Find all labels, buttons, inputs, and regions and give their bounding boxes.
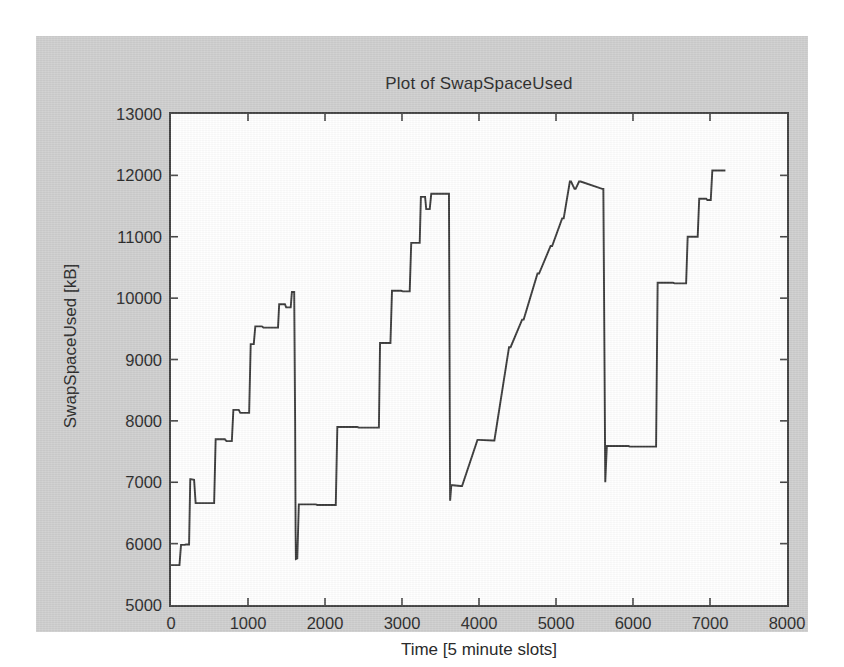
screenshot-root: Plot of SwapSpaceUsed 500060007000800090…	[0, 0, 844, 667]
y-tick-label: 11000	[117, 227, 162, 246]
chart-title: Plot of SwapSpaceUsed	[169, 74, 789, 94]
y-tick-label: 13000	[116, 105, 162, 124]
plot-svg	[171, 114, 787, 605]
y-tick-label: 12000	[116, 166, 162, 185]
y-axis-label: SwapSpaceUsed [kB]	[61, 216, 81, 476]
figure-panel: Plot of SwapSpaceUsed 500060007000800090…	[36, 36, 808, 632]
y-tick-label: 10000	[116, 289, 162, 308]
x-axis-label: Time [5 minute slots]	[169, 640, 789, 660]
x-tick-label: 7000	[692, 614, 729, 633]
x-tick-label: 4000	[461, 614, 498, 633]
data-series-line	[171, 170, 725, 565]
x-tick-label: 5000	[538, 614, 575, 633]
y-tick-label: 7000	[125, 473, 162, 492]
x-tick-label: 0	[166, 614, 175, 633]
x-axis-tick-labels: 010002000300040005000600070008000	[169, 614, 789, 640]
y-tick-label: 6000	[125, 534, 162, 553]
plot-area	[169, 112, 789, 607]
y-tick-label: 8000	[125, 411, 162, 430]
x-tick-label: 1000	[230, 614, 267, 633]
y-tick-label: 9000	[125, 350, 162, 369]
y-tick-label: 5000	[125, 596, 162, 615]
x-tick-label: 3000	[384, 614, 421, 633]
x-tick-label: 8000	[769, 614, 806, 633]
x-tick-label: 2000	[307, 614, 344, 633]
x-tick-label: 6000	[615, 614, 652, 633]
y-axis-tick-labels: 5000600070008000900010000110001200013000	[76, 112, 162, 607]
